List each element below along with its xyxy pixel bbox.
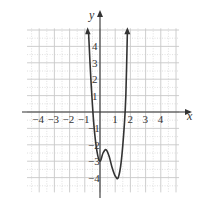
x-tick-label: −2 — [63, 113, 75, 125]
y-tick-label: 2 — [92, 73, 98, 85]
y-tick-label: −2 — [88, 139, 100, 151]
y-tick-label: −4 — [88, 172, 100, 184]
y-axis-arrow-icon — [97, 10, 103, 17]
curve-arrow-left-icon — [85, 27, 91, 34]
y-tick-label: 3 — [92, 57, 98, 69]
x-tick-label: −3 — [47, 113, 59, 125]
grid — [27, 28, 179, 192]
x-axis-label: x — [186, 109, 193, 123]
x-tick-label: 4 — [158, 113, 164, 125]
x-tick-label: 1 — [112, 113, 118, 125]
x-tick-label: 3 — [143, 113, 149, 125]
curve-arrow-right-icon — [124, 27, 130, 34]
function-graph: −4−3−2−112344321−1−2−3−4 x y — [0, 0, 199, 203]
y-axis-label: y — [88, 8, 95, 22]
y-tick-label: 4 — [92, 40, 98, 52]
x-tick-label: 2 — [127, 113, 132, 125]
x-tick-label: −4 — [32, 113, 44, 125]
